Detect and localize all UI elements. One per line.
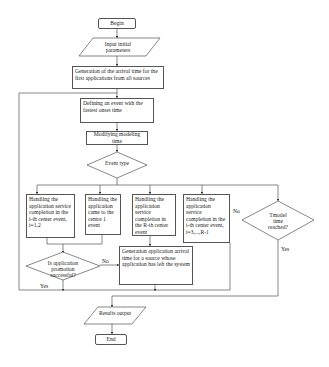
- modify-time-node: Modifying modeling time: [86, 131, 148, 145]
- generate-new-node: Generation application arrival time for …: [119, 246, 193, 285]
- define-event-node: Defining an event with the fastest onset…: [80, 98, 154, 123]
- tmodel-yes-label: Yes: [281, 246, 289, 252]
- generate-first-node: Generation of the arrival time for the f…: [72, 66, 164, 89]
- end-node: End: [95, 334, 127, 345]
- begin-node: Begin: [98, 18, 136, 29]
- tmodel-label: Tmodel time reached?: [265, 212, 291, 230]
- handle-ith-node: Handling the application service complet…: [26, 194, 75, 238]
- event-type-label: Event type: [102, 160, 132, 166]
- results-label: Results output: [98, 310, 132, 316]
- begin-label: Begin: [110, 20, 123, 27]
- handle-rth-node: Handling the application service complet…: [132, 194, 176, 236]
- end-label: End: [106, 336, 115, 343]
- input-label: Input initial parameters: [98, 41, 138, 53]
- promotion-label: Is application promotion successful?: [42, 260, 84, 278]
- handle-ith-3-node: Handling the application service complet…: [183, 194, 230, 243]
- promotion-yes-label: Yes: [40, 283, 48, 289]
- promotion-no-label: No: [102, 258, 109, 264]
- connector-lines: [0, 0, 329, 367]
- handle-center1-node: Handling the application came to the cen…: [85, 194, 121, 235]
- tmodel-no-label: No: [233, 208, 240, 214]
